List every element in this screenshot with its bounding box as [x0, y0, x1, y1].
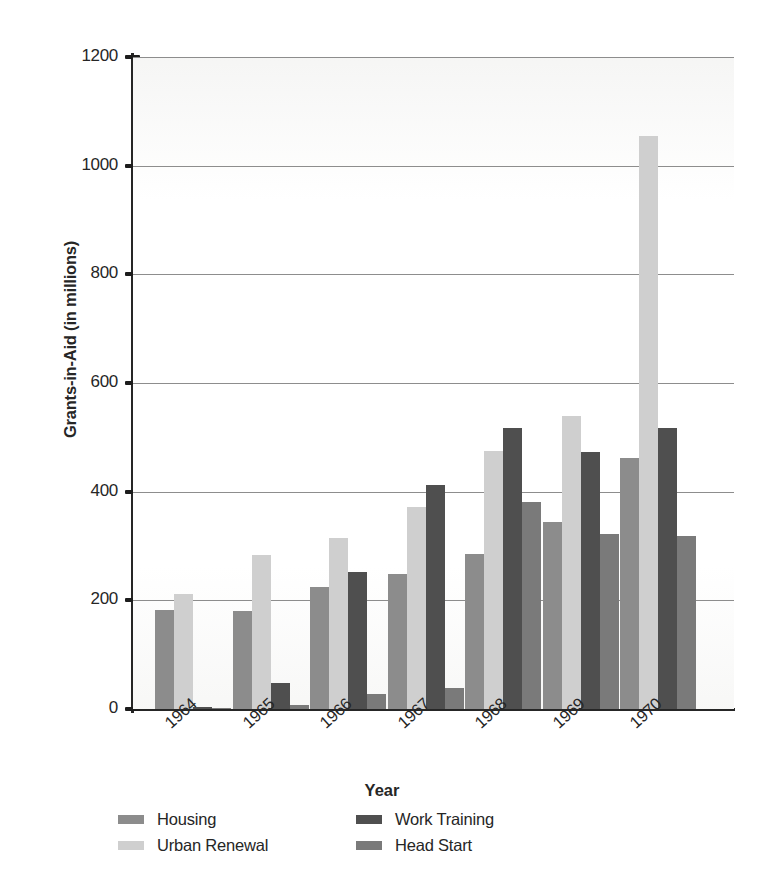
bar-group-1969 — [543, 57, 619, 709]
bar-work-training-1969 — [581, 452, 600, 709]
legend-label: Urban Renewal — [157, 836, 268, 855]
bar-work-training-1967 — [426, 485, 445, 709]
bar-head-start-1968 — [522, 502, 541, 709]
legend-swatch-icon — [118, 841, 144, 850]
bar-group-1965 — [233, 57, 309, 709]
legend-item-head-start[interactable]: Head Start — [356, 832, 566, 858]
y-axis-title: Grants-in-Aid (in millions) — [61, 180, 80, 500]
bar-head-start-1969 — [600, 534, 619, 709]
bar-group-1966 — [310, 57, 386, 709]
bar-work-training-1966 — [348, 572, 367, 709]
legend-label: Housing — [157, 810, 216, 829]
legend-label: Work Training — [395, 810, 494, 829]
bar-work-training-1970 — [658, 428, 677, 709]
legend-item-housing[interactable]: Housing — [118, 806, 328, 832]
bar-housing-1968 — [465, 554, 484, 709]
bar-group-1964 — [155, 57, 231, 709]
bar-head-start-1970 — [677, 536, 696, 709]
chart-legend: HousingWork TrainingUrban RenewalHead St… — [118, 806, 578, 858]
bar-housing-1964 — [155, 610, 174, 709]
bar-urban-renewal-1970 — [639, 136, 658, 709]
y-tick-label: 0 — [40, 698, 118, 718]
bar-urban-renewal-1964 — [174, 594, 193, 709]
bar-head-start-1964 — [212, 708, 231, 709]
bar-head-start-1966 — [367, 694, 386, 709]
legend-swatch-icon — [118, 815, 144, 824]
y-tick-label: 600 — [40, 372, 118, 392]
y-tick-label: 1200 — [40, 46, 118, 66]
legend-swatch-icon — [356, 815, 382, 824]
bar-housing-1970 — [620, 458, 639, 709]
bar-urban-renewal-1967 — [407, 507, 426, 709]
y-tick-label: 1000 — [40, 155, 118, 175]
y-tick-label: 800 — [40, 263, 118, 283]
legend-swatch-icon — [356, 841, 382, 850]
bar-group-1967 — [388, 57, 464, 709]
bar-housing-1967 — [388, 574, 407, 709]
legend-item-urban-renewal[interactable]: Urban Renewal — [118, 832, 328, 858]
y-tick-label: 200 — [40, 589, 118, 609]
legend-item-work-training[interactable]: Work Training — [356, 806, 566, 832]
bar-head-start-1967 — [445, 688, 464, 709]
bar-work-training-1968 — [503, 428, 522, 709]
bar-urban-renewal-1966 — [329, 538, 348, 709]
y-tick-label: 400 — [40, 481, 118, 501]
legend-label: Head Start — [395, 836, 472, 855]
bar-housing-1966 — [310, 587, 329, 709]
bar-group-1970 — [620, 57, 696, 709]
bar-urban-renewal-1969 — [562, 416, 581, 709]
bar-urban-renewal-1968 — [484, 451, 503, 709]
bar-urban-renewal-1965 — [252, 555, 271, 709]
bar-chart-figure: Grants-in-Aid (in millions) 020040060080… — [0, 0, 764, 889]
bar-group-1968 — [465, 57, 541, 709]
plot-area — [133, 57, 734, 709]
bar-head-start-1965 — [290, 705, 309, 709]
bar-housing-1969 — [543, 522, 562, 709]
bar-housing-1965 — [233, 611, 252, 709]
x-axis-title: Year — [0, 781, 764, 800]
